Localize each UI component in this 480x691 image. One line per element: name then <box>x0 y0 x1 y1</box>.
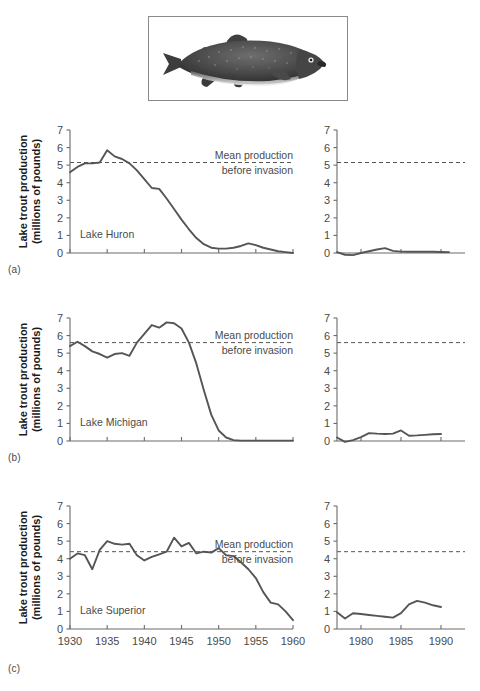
data-line-right <box>337 248 449 255</box>
plot-group: 0123456701234567Mean productionbefore in… <box>17 124 465 259</box>
mean-production-note-line2: before invasion <box>222 553 293 565</box>
y-tick-label: 3 <box>324 570 330 582</box>
data-line-right <box>337 601 441 619</box>
y-tick-label: 0 <box>57 435 63 447</box>
y-tick-label: 5 <box>57 347 63 359</box>
x-tick-label: 1930 <box>58 635 82 647</box>
y-tick-label: 7 <box>324 500 330 512</box>
panel-letter-c: (c) <box>8 663 20 674</box>
y-tick-label: 2 <box>57 400 63 412</box>
y-tick-label: 3 <box>57 194 63 206</box>
y-tick-label: 5 <box>324 347 330 359</box>
y-tick-label: 6 <box>57 518 63 530</box>
y-tick-label: 2 <box>324 588 330 600</box>
x-tick-label: 1980 <box>349 635 373 647</box>
x-tick-label: 1935 <box>95 635 119 647</box>
panel-letter-b: (b) <box>8 452 21 463</box>
y-tick-label: 1 <box>324 417 330 429</box>
plot-group: 0123456719301935194019451950195519600123… <box>17 500 465 647</box>
lake-trout-photo <box>149 17 347 100</box>
lake-name-label: Lake Huron <box>80 228 134 240</box>
y-tick-label: 4 <box>324 365 330 377</box>
y-tick-label: 5 <box>57 535 63 547</box>
mean-production-note-line1: Mean production <box>215 329 293 341</box>
x-tick-label: 1950 <box>206 635 230 647</box>
y-tick-label: 6 <box>57 330 63 342</box>
y-axis-label-line2: (millions of pounds) <box>30 139 42 244</box>
x-tick-label: 1985 <box>389 635 413 647</box>
panel-letter-a: (a) <box>8 264 21 275</box>
y-tick-label: 6 <box>324 518 330 530</box>
y-tick-label: 2 <box>324 400 330 412</box>
x-tick-label: 1960 <box>281 635 305 647</box>
mean-production-note-line2: before invasion <box>222 344 293 356</box>
x-tick-label: 1955 <box>244 635 268 647</box>
y-tick-label: 3 <box>57 570 63 582</box>
y-axis-label-line2: (millions of pounds) <box>30 515 42 620</box>
y-tick-label: 7 <box>324 124 330 136</box>
y-tick-label: 7 <box>57 124 63 136</box>
y-tick-label: 5 <box>324 159 330 171</box>
y-tick-label: 4 <box>57 365 63 377</box>
y-tick-label: 0 <box>324 623 330 635</box>
y-tick-label: 0 <box>57 247 63 259</box>
y-tick-label: 6 <box>324 330 330 342</box>
y-tick-label: 3 <box>324 382 330 394</box>
mean-production-note-line2: before invasion <box>222 164 293 176</box>
y-axis-label-line2: (millions of pounds) <box>30 327 42 432</box>
lake-name-label: Lake Superior <box>80 604 146 616</box>
y-tick-label: 6 <box>57 142 63 154</box>
y-tick-label: 3 <box>324 194 330 206</box>
panel-lake-michigan: 0123456701234567Mean productionbefore in… <box>0 306 480 466</box>
y-tick-label: 7 <box>57 312 63 324</box>
y-tick-label: 7 <box>324 312 330 324</box>
y-axis-label-line1: Lake trout production <box>17 510 29 624</box>
y-tick-label: 2 <box>57 588 63 600</box>
y-tick-label: 0 <box>324 435 330 447</box>
y-tick-label: 1 <box>57 229 63 241</box>
y-tick-label: 2 <box>324 212 330 224</box>
y-axis-label-line1: Lake trout production <box>17 134 29 248</box>
y-axis-label-line1: Lake trout production <box>17 322 29 436</box>
panel-lake-huron: 0123456701234567Mean productionbefore in… <box>0 118 480 278</box>
y-tick-label: 5 <box>324 535 330 547</box>
y-tick-label: 4 <box>57 553 63 565</box>
x-tick-label: 1940 <box>132 635 156 647</box>
y-tick-label: 4 <box>324 553 330 565</box>
y-tick-label: 5 <box>57 159 63 171</box>
lake-trout-photo-frame <box>148 16 348 101</box>
y-tick-label: 0 <box>324 247 330 259</box>
x-tick-label: 1990 <box>429 635 453 647</box>
y-tick-label: 1 <box>324 605 330 617</box>
figure-root: 0123456701234567Mean productionbefore in… <box>0 0 480 691</box>
y-tick-label: 4 <box>57 177 63 189</box>
chart-lake-michigan: 0123456701234567Mean productionbefore in… <box>0 306 480 466</box>
y-tick-label: 1 <box>57 605 63 617</box>
mean-production-note-line1: Mean production <box>215 149 293 161</box>
y-tick-label: 1 <box>324 229 330 241</box>
x-tick-label: 1945 <box>169 635 193 647</box>
chart-lake-huron: 0123456701234567Mean productionbefore in… <box>0 118 480 278</box>
data-line-right <box>337 430 441 441</box>
y-tick-label: 4 <box>324 177 330 189</box>
y-tick-label: 2 <box>57 212 63 224</box>
y-tick-label: 3 <box>57 382 63 394</box>
mean-production-note-line1: Mean production <box>215 538 293 550</box>
y-tick-label: 6 <box>324 142 330 154</box>
panel-lake-superior: 0123456719301935194019451950195519600123… <box>0 494 480 679</box>
plot-group: 0123456701234567Mean productionbefore in… <box>17 312 465 447</box>
y-tick-label: 0 <box>57 623 63 635</box>
lake-name-label: Lake Michigan <box>80 416 148 428</box>
y-tick-label: 7 <box>57 500 63 512</box>
y-tick-label: 1 <box>57 417 63 429</box>
chart-lake-superior: 0123456719301935194019451950195519600123… <box>0 494 480 679</box>
